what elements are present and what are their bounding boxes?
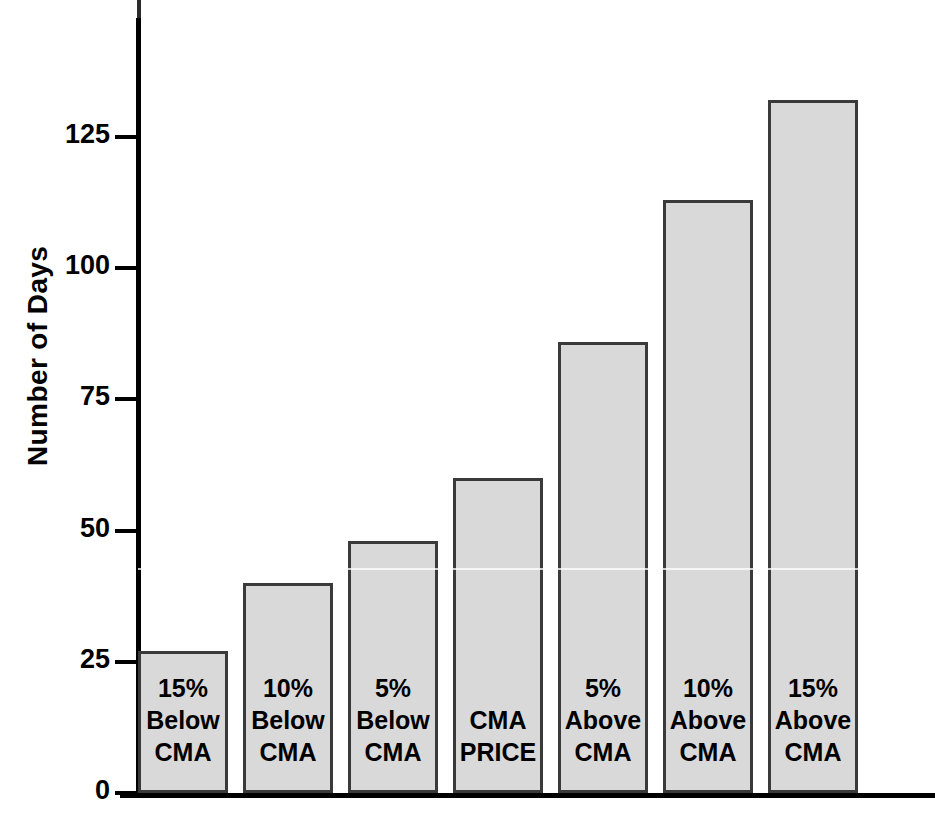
bar-category-label-line: 10% (263, 672, 313, 704)
bar: 15%AboveCMA (768, 100, 858, 793)
bar-category-label-line: Below (251, 704, 325, 736)
plot-area: 15%BelowCMA10%BelowCMA5%BelowCMACMAPRICE… (0, 0, 935, 819)
bar: 15%BelowCMA (138, 651, 228, 793)
bar-category-label-line: CMA (680, 736, 737, 768)
bar-category-label-line: PRICE (460, 736, 536, 768)
bar-category-label-line: 5% (375, 672, 411, 704)
bar-category-label-line: CMA (365, 736, 422, 768)
bar: CMAPRICE (453, 478, 543, 793)
bar: 10%BelowCMA (243, 583, 333, 793)
bar-category-label-line: CMA (155, 736, 212, 768)
bar-category-label-line: 15% (158, 672, 208, 704)
bar-chart: Number of Days 1251007550250 15%BelowCMA… (0, 0, 935, 819)
bar-category-label-line: Above (565, 704, 641, 736)
bar-category-label-line: CMA (785, 736, 842, 768)
bar-category-label-line: CMA (575, 736, 632, 768)
bar-category-label-line: Below (146, 704, 220, 736)
bar: 10%AboveCMA (663, 200, 753, 793)
bar-category-label-line: CMA (260, 736, 317, 768)
bar-category-label-line: 15% (788, 672, 838, 704)
bar-category-label-line: 5% (585, 672, 621, 704)
bar-category-label-line: Above (670, 704, 746, 736)
bar-category-label-line: Below (356, 704, 430, 736)
bar-category-label-line: Above (775, 704, 851, 736)
bar-category-label-line: CMA (470, 704, 527, 736)
bar: 5%BelowCMA (348, 541, 438, 793)
bar: 5%AboveCMA (558, 342, 648, 794)
bar-category-label-line: 10% (683, 672, 733, 704)
